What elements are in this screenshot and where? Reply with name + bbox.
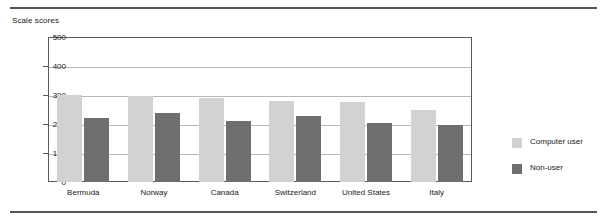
bar-group bbox=[269, 37, 321, 182]
legend-label: Computer user bbox=[530, 137, 583, 146]
legend-swatch bbox=[512, 164, 522, 174]
bar bbox=[57, 95, 82, 182]
legend-swatch bbox=[512, 138, 522, 148]
bar bbox=[269, 101, 294, 182]
top-divider-rule bbox=[10, 7, 597, 9]
bar bbox=[411, 110, 436, 182]
bar bbox=[340, 102, 365, 182]
bar bbox=[128, 96, 153, 182]
bar-group bbox=[199, 37, 251, 182]
y-axis-unit-label: Scale scores bbox=[12, 16, 59, 25]
bar-group bbox=[340, 37, 392, 182]
x-tick-label: Canada bbox=[211, 188, 239, 197]
bar bbox=[155, 113, 180, 182]
bar bbox=[226, 121, 251, 182]
x-tick-label: United States bbox=[342, 188, 390, 197]
bar-series-layer bbox=[48, 37, 472, 182]
legend-label: Non-user bbox=[530, 163, 563, 172]
bar bbox=[296, 116, 321, 182]
x-tick-label: Switzerland bbox=[275, 188, 316, 197]
bar bbox=[84, 118, 109, 182]
bar bbox=[367, 123, 392, 182]
x-tick-label: Norway bbox=[140, 188, 167, 197]
bar-group bbox=[57, 37, 109, 182]
x-tick-label: Italy bbox=[429, 188, 444, 197]
bar-group bbox=[128, 37, 180, 182]
bottom-divider-rule bbox=[10, 211, 597, 213]
bar-group bbox=[411, 37, 463, 182]
bar bbox=[438, 125, 463, 182]
bar bbox=[199, 98, 224, 182]
x-tick-label: Bermuda bbox=[67, 188, 99, 197]
